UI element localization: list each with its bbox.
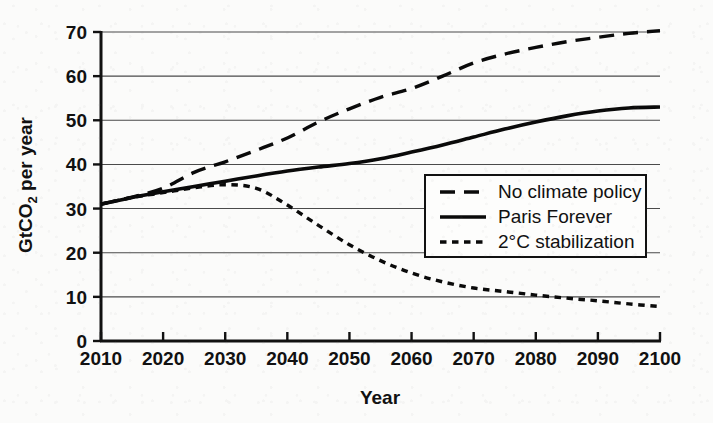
x-tick-label: 2070 — [453, 348, 495, 369]
y-tick-label: 30 — [66, 199, 87, 220]
y-tick-label: 20 — [66, 243, 87, 264]
y-axis-title-subscript: 2 — [25, 196, 40, 203]
emissions-line-chart: 010203040506070 201020202030204020502060… — [0, 0, 713, 423]
legend-items-group: No climate policyParis Forever2°C stabil… — [440, 181, 642, 252]
x-tick-label: 2040 — [266, 348, 308, 369]
legend-label: Paris Forever — [498, 206, 613, 227]
x-tick-label: 2090 — [577, 348, 619, 369]
x-tick-label: 2100 — [639, 348, 681, 369]
y-axis-title: GtCO2 per year — [15, 116, 40, 253]
y-tick-label: 10 — [66, 287, 87, 308]
y-tick-label: 70 — [66, 22, 87, 43]
y-tick-labels-group: 010203040506070 — [66, 22, 87, 352]
y-tick-label: 40 — [66, 154, 87, 175]
y-tick-label: 60 — [66, 66, 87, 87]
x-tick-label: 2020 — [142, 348, 184, 369]
svg-text:GtCO2 per year: GtCO2 per year — [15, 116, 40, 253]
x-tick-label: 2060 — [390, 348, 432, 369]
x-tick-label: 2010 — [80, 348, 122, 369]
x-tick-label: 2050 — [328, 348, 370, 369]
chart-legend: No climate policyParis Forever2°C stabil… — [425, 175, 646, 257]
y-axis-title-post: per year — [15, 116, 36, 196]
y-axis-title-pre: GtCO — [15, 203, 36, 253]
series-group — [101, 31, 660, 307]
legend-label: No climate policy — [498, 181, 642, 202]
y-tick-label: 50 — [66, 110, 87, 131]
x-axis-title: Year — [360, 387, 401, 408]
x-tick-label: 2080 — [515, 348, 557, 369]
legend-label: 2°C stabilization — [498, 231, 634, 252]
x-tick-label: 2030 — [204, 348, 246, 369]
chart-figure: 010203040506070 201020202030204020502060… — [0, 0, 713, 423]
x-tick-labels-group: 2010202020302040205020602070208020902100 — [80, 348, 681, 369]
